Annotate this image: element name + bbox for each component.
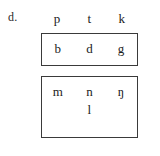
- phone-row-nasals: m n ŋ: [42, 77, 137, 100]
- phone-box-voiced-stops: b d g: [41, 33, 138, 66]
- phone-g: g: [114, 41, 128, 57]
- phone-n: n: [82, 84, 96, 100]
- phoneme-class-figure: d. p t k b d g m n ŋ l: [0, 0, 160, 156]
- phone-t: t: [82, 11, 96, 27]
- phone-row-voiced-stops: b d g: [42, 34, 137, 57]
- item-label: d.: [8, 10, 17, 24]
- phone-row-voiceless-stops: p t k: [41, 11, 138, 27]
- phone-b: b: [51, 41, 65, 57]
- phone-row-lateral: l: [42, 100, 137, 118]
- phone-l: l: [83, 102, 97, 118]
- phone-p: p: [50, 11, 64, 27]
- phone-m: m: [51, 84, 65, 100]
- phone-d: d: [82, 41, 96, 57]
- phone-k: k: [115, 11, 129, 27]
- phone-eng: ŋ: [114, 84, 128, 100]
- phone-box-sonorants: m n ŋ l: [41, 76, 138, 138]
